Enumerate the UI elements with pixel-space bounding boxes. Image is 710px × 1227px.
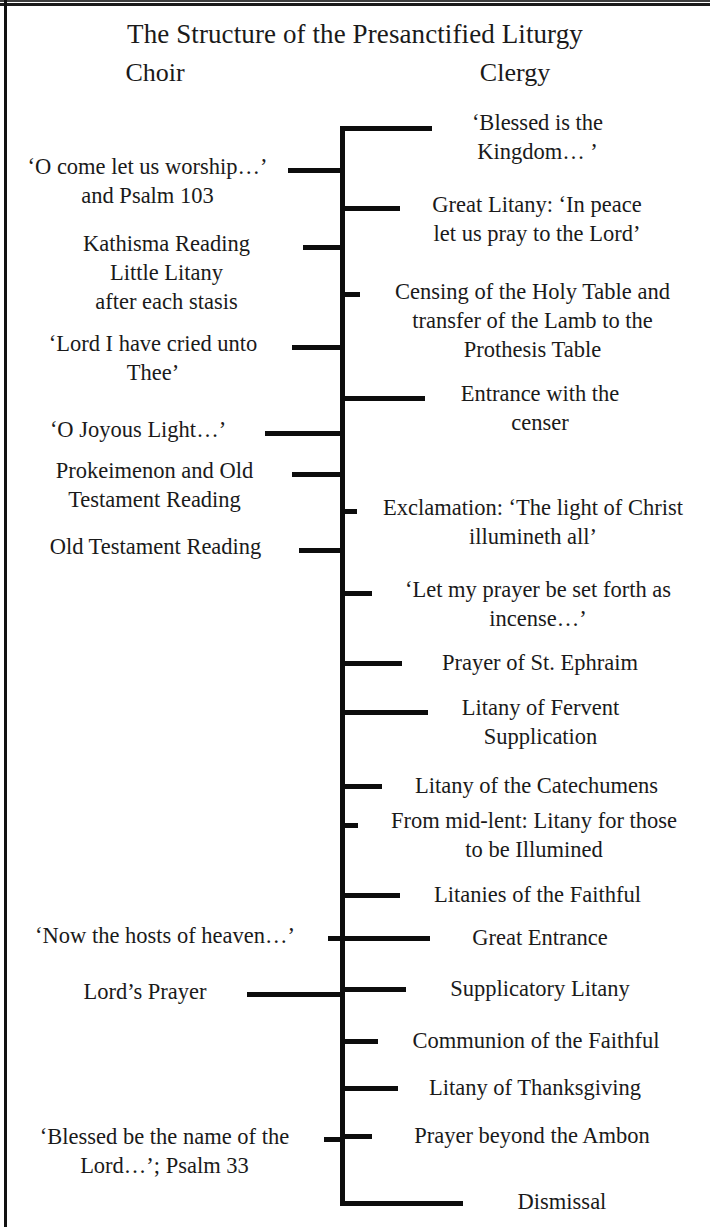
clergy-label-4: Exclamation: ‘The light of Christillumin… [357, 493, 709, 551]
tick-choir-8 [324, 1137, 345, 1142]
frame-top-border [0, 3, 710, 6]
tick-clergy-7 [340, 710, 428, 715]
choir-label-3: ‘O Joyous Light…’ [18, 415, 258, 444]
tick-clergy-5 [340, 591, 372, 596]
tick-choir-4 [292, 472, 345, 477]
clergy-label-9: From mid-lent: Litany for thoseto be Ill… [360, 806, 708, 864]
choir-label-4: Prokeimenon and OldTestament Reading [22, 456, 287, 514]
clergy-label-16: Dismissal [472, 1187, 652, 1216]
tick-choir-7 [247, 992, 345, 997]
tick-choir-3 [265, 431, 345, 436]
tick-clergy-12 [340, 987, 406, 992]
column-heading-choir: Choir [60, 58, 250, 88]
tick-clergy-9 [340, 823, 358, 828]
timeline-spine [340, 126, 345, 1206]
clergy-label-8: Litany of the Catechumens [394, 771, 679, 800]
choir-label-6: ‘Now the hosts of heaven…’ [10, 921, 320, 950]
diagram-title: The Structure of the Presanctified Litur… [0, 18, 710, 50]
tick-choir-1 [303, 245, 345, 250]
tick-choir-0 [288, 168, 345, 173]
choir-label-7: Lord’s Prayer [55, 977, 235, 1006]
column-heading-clergy: Clergy [420, 58, 610, 88]
presanctified-liturgy-diagram: The Structure of the Presanctified Litur… [0, 0, 710, 1227]
choir-label-8: ‘Blessed be the name of theLord…’; Psalm… [12, 1122, 317, 1180]
frame-left-border [4, 0, 7, 1227]
tick-choir-5 [299, 548, 345, 553]
clergy-label-5: ‘Let my prayer be set forth asincense…’ [373, 575, 703, 633]
clergy-label-3: Entrance with thecenser [430, 379, 650, 437]
clergy-label-1: Great Litany: ‘In peacelet us pray to th… [402, 190, 672, 248]
tick-clergy-11 [340, 936, 430, 941]
tick-clergy-10 [340, 893, 400, 898]
clergy-label-6: Prayer of St. Ephraim [415, 648, 665, 677]
clergy-label-14: Litany of Thanksgiving [402, 1073, 668, 1102]
tick-clergy-13 [340, 1039, 378, 1044]
clergy-label-13: Communion of the Faithful [386, 1026, 686, 1055]
clergy-label-15: Prayer beyond the Ambon [378, 1121, 686, 1150]
tick-clergy-8 [340, 784, 382, 789]
choir-label-2: ‘Lord I have cried untoThee’ [18, 329, 288, 387]
clergy-label-0: ‘Blessed is theKingdom… ’ [430, 108, 645, 166]
clergy-label-10: Litanies of the Faithful [400, 880, 675, 909]
tick-clergy-1 [340, 206, 400, 211]
clergy-label-2: Censing of the Holy Table andtransfer of… [360, 277, 705, 364]
tick-clergy-6 [340, 661, 402, 666]
clergy-label-12: Supplicatory Litany [415, 974, 665, 1003]
clergy-label-11: Great Entrance [440, 923, 640, 952]
clergy-label-7: Litany of FerventSupplication [428, 693, 653, 751]
tick-clergy-0 [340, 126, 432, 131]
tick-choir-6 [328, 936, 345, 941]
tick-clergy-2 [340, 292, 360, 297]
frame-top-edge [0, 0, 710, 2]
choir-label-5: Old Testament Reading [18, 532, 293, 561]
choir-label-1: Kathisma ReadingLittle Litanyafter each … [35, 229, 298, 316]
tick-clergy-3 [340, 396, 425, 401]
tick-clergy-4 [340, 509, 357, 514]
tick-clergy-14 [340, 1086, 398, 1091]
tick-clergy-16 [340, 1201, 463, 1206]
tick-choir-2 [292, 345, 345, 350]
choir-label-0: ‘O come let us worship…’and Psalm 103 [10, 152, 285, 210]
